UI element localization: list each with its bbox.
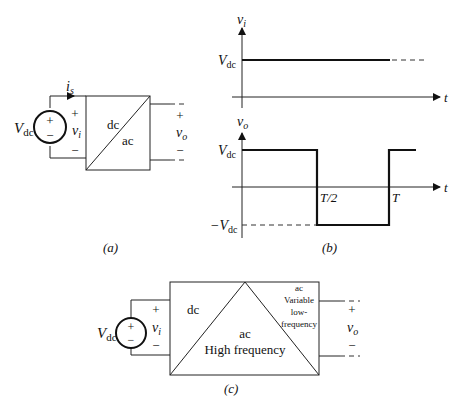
tick-full-period: T [392,190,400,205]
source-label: Vdc [14,120,34,138]
vo-neg-label: −Vdc [210,218,238,235]
c-source-minus: − [128,333,135,347]
output-voltage-label: vo [176,125,187,142]
input-wire-top [50,96,86,108]
panel-b-input-waveform: vi t Vdc [218,12,448,108]
vi-level-label: Vdc [218,53,237,70]
source-minus: − [46,128,53,143]
c-input-voltage-label: vi [152,320,161,337]
c-source-plus: + [128,320,135,334]
output-plus: + [176,108,183,123]
c-right-ac-label: ac [295,283,303,293]
block-diagonal [86,96,150,170]
c-output-voltage-label: vo [347,320,358,337]
c-center-ac-label: ac [239,326,251,341]
c-variable-label: Variable [284,295,314,305]
current-label: is [66,79,74,96]
source-plus: + [46,113,53,128]
c-source-label: Vdc [97,325,117,343]
inverter-figure: + − Vdc is + vi − dc ac + vo − (a) vi t … [0,0,459,411]
c-output-plus: + [348,302,355,317]
caption-a: (a) [103,240,118,255]
c-output-minus: − [348,338,355,353]
c-frequency-label: frequency [281,319,317,329]
caption-c: (c) [224,381,238,396]
caption-b: (b) [322,240,337,255]
c-input-minus: − [152,338,159,353]
c-high-frequency-label: High frequency [204,342,286,357]
vi-axis-label: vi [237,12,246,29]
input-plus: + [71,106,78,121]
tick-half-period: T/2 [320,190,338,205]
output-minus: − [176,143,183,158]
panel-b-output-waveform: vo t Vdc −Vdc T/2 T (b) [210,114,448,255]
panel-a-circuit: + − Vdc is + vi − dc ac + vo − (a) [14,79,188,255]
vo-axis-label: vo [237,114,248,131]
block-dc-label: dc [107,117,120,132]
input-wire-bottom [50,146,86,158]
block-ac-label: ac [122,133,134,148]
panel-c-circuit: + − Vdc + vi − dc ac High frequency ac V… [97,282,360,396]
t-label-bottom: t [444,180,448,195]
t-label-top: t [444,90,448,105]
input-voltage-label: vi [72,123,81,140]
vo-pos-label: Vdc [218,143,237,160]
c-dc-label: dc [187,302,200,317]
input-minus: − [71,143,78,158]
c-low-label: low- [291,307,308,317]
c-input-plus: + [152,302,159,317]
